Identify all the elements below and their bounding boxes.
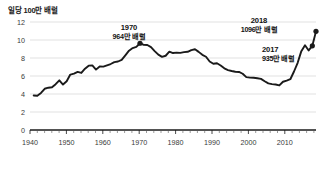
y-tick-4: 4 xyxy=(21,90,25,99)
annotation-1970-year: 1970 xyxy=(93,23,165,32)
annotation-2018: 2018 1096만 배럴 xyxy=(222,16,296,34)
annotation-2018-year: 2018 xyxy=(222,16,296,25)
annotation-1970-value: 964만 배럴 xyxy=(93,32,165,41)
gridlines xyxy=(30,22,316,112)
x-tick-1960: 1960 xyxy=(95,138,111,147)
x-tick-2000: 2000 xyxy=(240,138,256,147)
annotation-2017: 2017 935만 배럴 xyxy=(258,45,324,63)
y-tick-8: 8 xyxy=(21,54,25,63)
annotation-2018-value: 1096만 배럴 xyxy=(222,25,296,34)
y-tick-0: 0 xyxy=(21,126,25,135)
y-tick-labels: 12 10 8 6 4 2 0 xyxy=(17,18,25,135)
annotation-2017-value: 935만 배럴 xyxy=(262,54,324,63)
annotation-2017-year: 2017 xyxy=(262,45,324,54)
x-tick-1970: 1970 xyxy=(131,138,147,147)
y-tick-10: 10 xyxy=(17,36,25,45)
annotation-1970: 1970 964만 배럴 xyxy=(93,23,165,41)
y-tick-12: 12 xyxy=(17,18,25,27)
x-tick-1980: 1980 xyxy=(168,138,184,147)
x-tick-1990: 1990 xyxy=(204,138,220,147)
x-tick-labels: 1940 1950 1960 1970 1980 1990 2000 2010 xyxy=(22,138,293,147)
chart-container: 일당 100만 배럴 12 10 8 6 4 2 0 xyxy=(0,0,324,170)
data-series-line xyxy=(34,31,316,95)
y-tick-2: 2 xyxy=(21,108,25,117)
x-tick-2010: 2010 xyxy=(277,138,293,147)
x-tick-1940: 1940 xyxy=(22,138,38,147)
point-marker-2018 xyxy=(313,29,318,34)
x-tick-1950: 1950 xyxy=(58,138,74,147)
y-tick-6: 6 xyxy=(21,72,25,81)
